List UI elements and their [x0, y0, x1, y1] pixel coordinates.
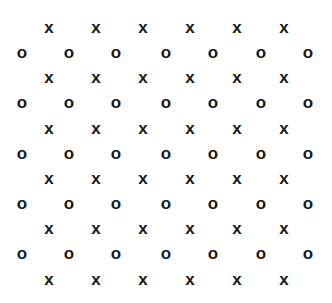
o-mark: o	[17, 94, 27, 111]
x-mark: x	[44, 170, 53, 187]
o-mark: o	[17, 245, 27, 262]
o-mark: o	[303, 94, 313, 111]
x-mark: x	[232, 220, 241, 237]
x-mark: x	[279, 69, 288, 86]
x-mark: x	[91, 271, 100, 288]
x-mark: x	[185, 120, 194, 137]
o-mark: o	[303, 195, 313, 212]
x-mark: x	[44, 271, 53, 288]
x-mark: x	[44, 19, 53, 36]
o-mark: o	[303, 145, 313, 162]
o-mark: o	[303, 245, 313, 262]
o-mark: o	[208, 94, 218, 111]
o-mark: o	[64, 145, 74, 162]
x-mark: x	[44, 220, 53, 237]
x-mark: x	[279, 120, 288, 137]
x-mark: x	[185, 19, 194, 36]
o-mark: o	[17, 195, 27, 212]
x-mark: x	[138, 120, 147, 137]
o-mark: o	[64, 245, 74, 262]
o-mark: o	[111, 44, 121, 61]
x-mark: x	[138, 69, 147, 86]
o-mark: o	[256, 94, 266, 111]
o-mark: o	[256, 195, 266, 212]
x-mark: x	[138, 220, 147, 237]
x-mark: x	[232, 69, 241, 86]
o-mark: o	[161, 44, 171, 61]
x-mark: x	[91, 220, 100, 237]
x-mark: x	[185, 271, 194, 288]
x-mark: x	[232, 170, 241, 187]
x-mark: x	[91, 170, 100, 187]
x-mark: x	[185, 170, 194, 187]
o-mark: o	[303, 44, 313, 61]
o-mark: o	[64, 94, 74, 111]
o-mark: o	[17, 145, 27, 162]
o-mark: o	[208, 195, 218, 212]
o-mark: o	[256, 145, 266, 162]
x-mark: x	[232, 19, 241, 36]
x-mark: x	[91, 120, 100, 137]
x-mark: x	[279, 19, 288, 36]
x-mark: x	[185, 69, 194, 86]
o-mark: o	[256, 44, 266, 61]
o-mark: o	[111, 245, 121, 262]
o-mark: o	[161, 145, 171, 162]
x-mark: x	[91, 19, 100, 36]
x-mark: x	[91, 69, 100, 86]
x-mark: x	[279, 170, 288, 187]
o-mark: o	[111, 94, 121, 111]
x-mark: x	[279, 220, 288, 237]
x-mark: x	[232, 271, 241, 288]
o-mark: o	[161, 195, 171, 212]
x-mark: x	[44, 120, 53, 137]
o-mark: o	[208, 44, 218, 61]
o-mark: o	[208, 145, 218, 162]
x-mark: x	[185, 220, 194, 237]
o-mark: o	[111, 145, 121, 162]
o-mark: o	[161, 245, 171, 262]
o-mark: o	[111, 195, 121, 212]
x-mark: x	[138, 19, 147, 36]
o-mark: o	[64, 195, 74, 212]
x-mark: x	[44, 69, 53, 86]
x-mark: x	[279, 271, 288, 288]
x-mark: x	[138, 170, 147, 187]
o-mark: o	[208, 245, 218, 262]
o-mark: o	[64, 44, 74, 61]
x-mark: x	[232, 120, 241, 137]
o-mark: o	[256, 245, 266, 262]
o-mark: o	[161, 94, 171, 111]
x-mark: x	[138, 271, 147, 288]
o-mark: o	[17, 44, 27, 61]
